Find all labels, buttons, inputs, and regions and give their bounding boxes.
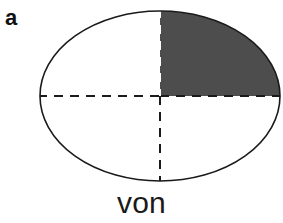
figure-caption: von <box>0 186 283 220</box>
figure-panel: a von <box>0 0 283 223</box>
ellipse-quadrant-diagram <box>0 0 283 190</box>
